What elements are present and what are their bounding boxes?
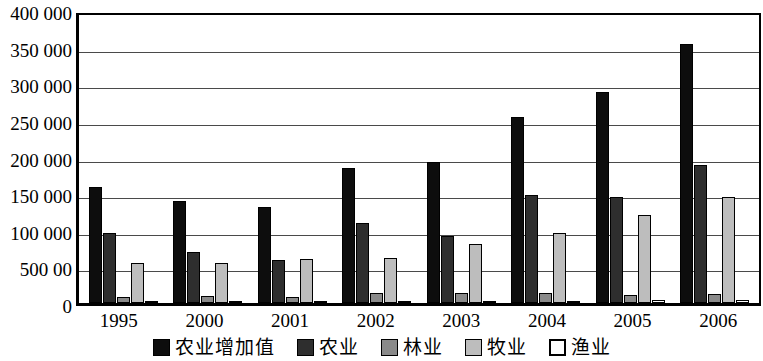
x-tick-label: 2002 (333, 309, 419, 335)
legend-label: 农业增加值 (175, 337, 275, 358)
bar (356, 223, 369, 303)
bar (258, 207, 271, 303)
legend-swatch-icon (153, 339, 170, 356)
bar (215, 263, 228, 303)
legend-label: 农业 (319, 337, 359, 358)
x-tick-label: 2001 (247, 309, 333, 335)
x-tick-label: 1995 (76, 309, 162, 335)
y-axis: 400 000350 000300 000250 000200 000150 0… (0, 0, 76, 318)
legend-swatch-icon (465, 339, 482, 356)
bar (610, 197, 623, 303)
bar (596, 92, 609, 303)
bar (272, 260, 285, 303)
bar (652, 300, 665, 303)
bar (624, 295, 637, 303)
bar (103, 233, 116, 303)
bars-layer (79, 15, 759, 303)
x-tick-label: 2000 (162, 309, 248, 335)
bar (736, 300, 749, 303)
bar (286, 297, 299, 303)
y-tick-label: 300 000 (10, 77, 72, 96)
bar (201, 296, 214, 303)
chart-legend: 农业增加值农业林业牧业渔业 (0, 334, 763, 361)
bar (384, 258, 397, 303)
legend-swatch-icon (297, 339, 314, 356)
y-tick-label: 0 (63, 297, 73, 316)
bar (455, 293, 468, 303)
bar (427, 162, 440, 303)
bar (370, 293, 383, 303)
y-tick-label: 100 000 (10, 223, 72, 242)
plot-area (76, 13, 761, 306)
x-tick-label: 2004 (504, 309, 590, 335)
y-tick-label: 500 00 (20, 260, 72, 279)
bar (722, 197, 735, 303)
y-tick-label: 200 000 (10, 150, 72, 169)
bar (638, 215, 651, 303)
y-tick-label: 350 000 (10, 40, 72, 59)
bar (314, 301, 327, 303)
bar (89, 187, 102, 303)
bar (187, 252, 200, 303)
y-tick-label: 150 000 (10, 187, 72, 206)
bar-group (588, 15, 673, 303)
bar-group (335, 15, 420, 303)
y-tick-label: 400 000 (10, 4, 72, 23)
bar-chart: 400 000350 000300 000250 000200 000150 0… (0, 0, 763, 361)
plot-wrapper: 400 000350 000300 000250 000200 000150 0… (0, 0, 763, 318)
legend-item[interactable]: 牧业 (465, 337, 527, 358)
bar (131, 263, 144, 303)
y-tick-label: 250 000 (10, 113, 72, 132)
bar-group (673, 15, 758, 303)
bar (469, 244, 482, 303)
x-tick-label: 2005 (590, 309, 676, 335)
bar-group (81, 15, 166, 303)
bar (342, 168, 355, 304)
bar (680, 44, 693, 303)
legend-swatch-icon (381, 339, 398, 356)
legend-item[interactable]: 农业 (297, 337, 359, 358)
legend-label: 牧业 (487, 337, 527, 358)
x-axis: 19952000200120022003200420052006 (76, 309, 761, 335)
bar-group (250, 15, 335, 303)
x-tick-label: 2006 (675, 309, 761, 335)
bar (567, 301, 580, 303)
bar (553, 233, 566, 303)
bar (173, 201, 186, 303)
bar (525, 195, 538, 303)
legend-item[interactable]: 林业 (381, 337, 443, 358)
legend-swatch-icon (549, 339, 566, 356)
bar (117, 297, 130, 303)
bar-group (419, 15, 504, 303)
legend-label: 渔业 (571, 337, 611, 358)
bar (441, 236, 454, 303)
bar (229, 301, 242, 303)
legend-label: 林业 (403, 337, 443, 358)
x-tick-label: 2003 (419, 309, 505, 335)
bar (539, 293, 552, 303)
bar (708, 294, 721, 303)
bar (300, 259, 313, 303)
bar (511, 117, 524, 303)
bar (145, 301, 158, 303)
bar (483, 301, 496, 303)
bar (694, 165, 707, 303)
bar (398, 301, 411, 303)
bar-group (504, 15, 589, 303)
legend-item[interactable]: 农业增加值 (153, 337, 275, 358)
legend-item[interactable]: 渔业 (549, 337, 611, 358)
bar-group (166, 15, 251, 303)
